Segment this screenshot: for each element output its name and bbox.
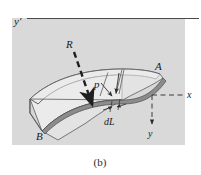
label-A: A — [154, 60, 162, 72]
label-B: B — [36, 130, 43, 142]
label-y-prime: y′ — [13, 15, 22, 27]
label-R: R — [65, 38, 73, 50]
label-p: p — [93, 78, 100, 90]
label-dL: dL — [104, 116, 115, 127]
diagram-svg: y′ R p A B dL x y (b) — [0, 0, 201, 175]
figure-container: y′ R p A B dL x y (b) — [0, 0, 201, 175]
figure-caption: (b) — [94, 156, 107, 169]
label-y: y — [147, 128, 153, 139]
label-x: x — [186, 89, 192, 100]
